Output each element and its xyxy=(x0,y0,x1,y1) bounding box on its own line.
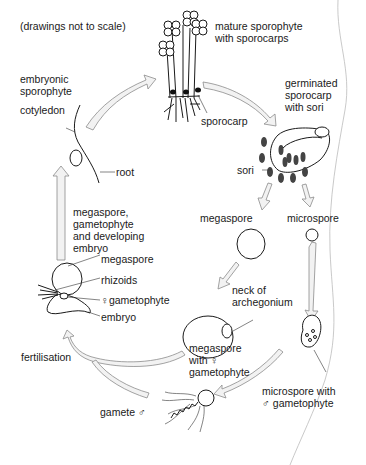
male-gamete-drawing xyxy=(162,390,214,432)
arrow-to-microspore xyxy=(302,184,314,207)
note-not-to-scale: (drawings not to scale) xyxy=(20,20,126,32)
label-embryonic-sporophyte: embryonic sporophyte xyxy=(20,73,72,97)
label-embryo: embryo xyxy=(101,311,136,323)
arrow-to-mature-sporophyte xyxy=(86,75,156,130)
label-rhizoids: rhizoids xyxy=(101,274,137,286)
label-female-gametophyte: ♀gametophyte xyxy=(101,294,170,306)
label-microspore-with-male-gametophyte: microspore with ♂ gametophyte xyxy=(262,385,336,409)
label-sori: sori xyxy=(237,164,254,176)
microspore-with-male-gametophyte-drawing xyxy=(301,315,321,347)
label-sporocarp: sporocarp xyxy=(201,115,248,127)
label-germinated-sporocarp: germinated sporocarp with sori xyxy=(285,77,338,113)
label-megaspore: megaspore xyxy=(200,212,253,224)
megaspore-drawing xyxy=(237,229,265,259)
mature-sporophyte-drawing xyxy=(159,11,207,122)
megaspore-gametophyte-embryo-drawing xyxy=(38,263,90,314)
label-microspore: microspore xyxy=(287,212,339,224)
label-fertilisation: fertilisation xyxy=(21,351,71,363)
label-gamete-male: gamete ♂ xyxy=(100,406,146,418)
arrow-to-embryonic-sporophyte xyxy=(53,166,69,260)
label-neck-of-archegonium: neck of archegonium xyxy=(232,284,293,308)
arrow-fertilisation-loop xyxy=(63,330,185,366)
label-megaspore-gametophyte-embryo: megaspore, gametophyte and developing em… xyxy=(73,206,144,254)
label-megaspore-small: megaspore xyxy=(101,253,154,265)
arrow-to-megaspore xyxy=(258,183,272,210)
label-cotyledon: cotyledon xyxy=(20,104,65,116)
label-mature-sporophyte: mature sporophyte with sporocarps xyxy=(215,20,303,44)
arrow-to-male-gametophyte xyxy=(305,242,318,321)
germinated-sporocarp-drawing xyxy=(259,127,330,183)
label-megaspore-with-female-gametophyte: megaspore with ♀ gametophyte xyxy=(189,342,250,378)
label-root: root xyxy=(116,166,134,178)
microspore-drawing xyxy=(306,229,318,241)
